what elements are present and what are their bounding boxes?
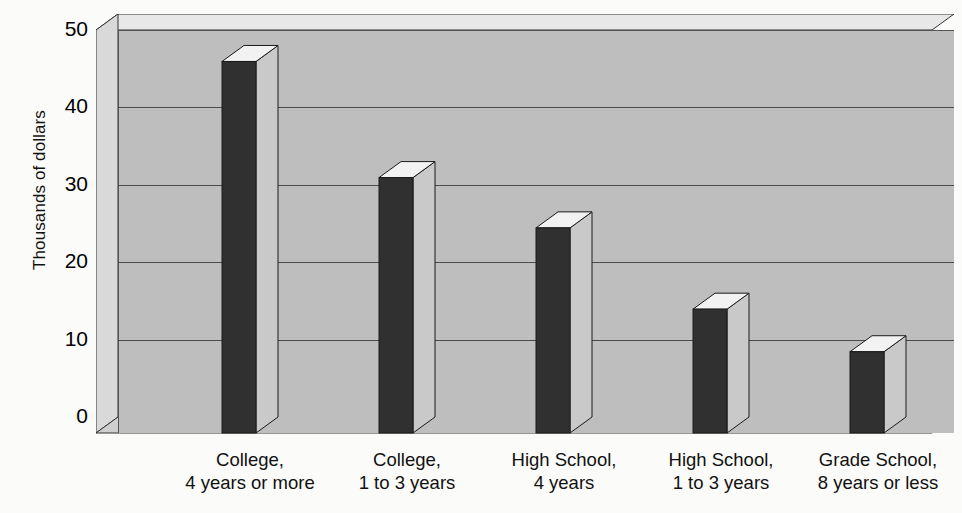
bar-1[interactable]	[96, 14, 954, 438]
x-label-5-line2: 8 years or less	[768, 471, 962, 494]
x-label-5-line1: Grade School,	[768, 448, 962, 471]
bar-1-top-face	[222, 45, 278, 61]
bar-5-side-face	[884, 336, 906, 433]
bar-2[interactable]	[96, 14, 954, 438]
y-axis-tick-10: 10	[46, 328, 88, 349]
bar-5[interactable]	[96, 14, 954, 438]
bar-series	[96, 14, 954, 438]
y-axis-tick-30: 30	[46, 173, 88, 194]
x-axis-category-labels: College,4 years or moreCollege,1 to 3 ye…	[0, 448, 962, 510]
bar-2-side-face	[413, 162, 435, 433]
bar-3-front-face	[536, 228, 570, 433]
plot-area	[96, 14, 954, 438]
bar-1-front-face	[222, 61, 256, 433]
y-axis-tick-40: 40	[46, 95, 88, 116]
bar-5-front-face	[850, 352, 884, 433]
y-axis-tick-labels: 50403020100	[20, 0, 88, 513]
y-axis-tick-50: 50	[46, 18, 88, 39]
bar-4[interactable]	[96, 14, 954, 438]
bar-2-top-face	[379, 162, 435, 178]
bar-chart: Thousands of dollars 50403020100 College…	[0, 0, 962, 513]
bar-3-side-face	[570, 212, 592, 433]
y-axis-tick-20: 20	[46, 250, 88, 271]
bar-4-side-face	[727, 293, 749, 433]
x-label-5: Grade School,8 years or less	[768, 448, 962, 494]
bar-1-side-face	[256, 45, 278, 433]
bar-2-front-face	[379, 178, 413, 433]
bar-3-top-face	[536, 212, 592, 228]
bar-4-top-face	[693, 293, 749, 309]
bar-5-top-face	[850, 336, 906, 352]
bar-4-front-face	[693, 309, 727, 433]
y-axis-tick-0: 0	[46, 405, 88, 426]
bar-3[interactable]	[96, 14, 954, 438]
